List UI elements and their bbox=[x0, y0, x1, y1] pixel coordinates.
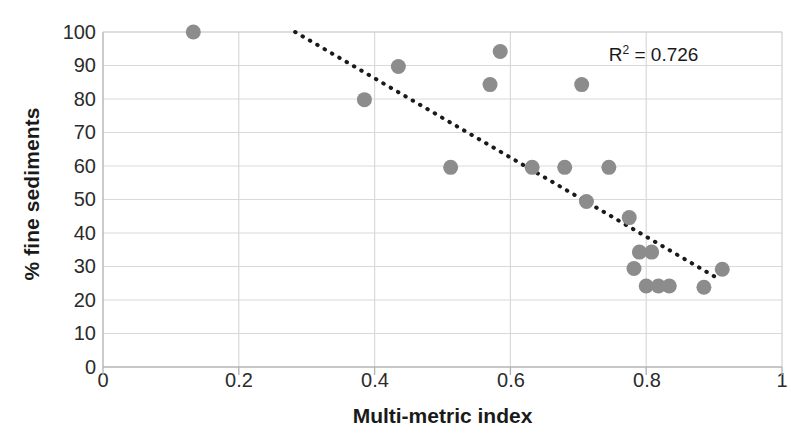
plot-area bbox=[0, 0, 791, 441]
axis-frame bbox=[103, 32, 782, 375]
data-point bbox=[391, 59, 406, 74]
data-point bbox=[186, 25, 201, 40]
data-point bbox=[357, 92, 372, 107]
data-point bbox=[662, 278, 677, 293]
data-point bbox=[493, 44, 508, 59]
data-point bbox=[574, 77, 589, 92]
scatter-chart: % fine sediments 100 90 80 70 60 50 40 3… bbox=[0, 0, 791, 441]
data-point bbox=[622, 210, 637, 225]
trendline bbox=[295, 32, 717, 278]
data-point bbox=[443, 160, 458, 175]
data-point bbox=[626, 261, 641, 276]
data-point bbox=[696, 280, 711, 295]
gridlines bbox=[103, 32, 782, 367]
data-point bbox=[525, 160, 540, 175]
data-point bbox=[601, 160, 616, 175]
data-point bbox=[483, 77, 498, 92]
data-point bbox=[715, 262, 730, 277]
data-point bbox=[579, 194, 594, 209]
data-point bbox=[557, 160, 572, 175]
data-point bbox=[644, 245, 659, 260]
